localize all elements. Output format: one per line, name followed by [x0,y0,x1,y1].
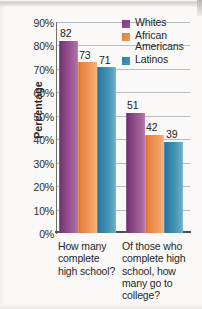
value-label-latinos-group0: 71 [99,54,110,66]
legend-item-african-americans[interactable]: African Americans [122,30,200,53]
x-axis-category-labels: How many complete high school? Of those … [0,240,202,309]
legend: Whites African Americans Latinos [122,17,200,66]
legend-item-latinos[interactable]: Latinos [122,54,200,66]
y-tick-label: 20% [2,181,54,193]
value-label-whites-group0: 82 [60,27,71,39]
legend-label-whites: Whites [135,17,167,29]
bar-latinos-group1[interactable] [164,142,183,233]
bar-african-americans-group1[interactable] [145,135,164,233]
bar-african-americans-group0[interactable] [78,62,97,233]
x-category-label-1: Of those who complete high school, how m… [122,240,202,301]
bar-whites-group0[interactable] [59,41,78,233]
legend-swatch-icon-whites [122,20,130,28]
bar-whites-group1[interactable] [126,113,145,233]
bar-latinos-group0[interactable] [97,67,116,233]
legend-label-latinos: Latinos [135,54,168,66]
value-label-african-americans-group0: 73 [79,49,90,61]
legend-label-african-americans: African Americans [135,30,200,53]
x-category-label-0: How many complete high school? [58,240,120,277]
legend-swatch-icon-latinos [122,57,130,65]
y-tick-label: 10% [2,205,54,217]
legend-swatch-icon-african-americans [122,33,130,41]
y-tick-label: 80% [2,40,54,52]
y-tick-label: 30% [2,158,54,170]
y-tick-label: 90% [2,17,54,29]
scan-artifact-top-right [197,0,202,16]
value-label-african-americans-group1: 42 [146,121,157,133]
y-tick-label: 40% [2,134,54,146]
value-label-whites-group1: 51 [127,99,138,111]
y-tick-label: 60% [2,87,54,99]
chart-figure: Percentage 90% 80% 70% 60% 50% 40% 30% 2… [0,0,202,309]
y-tick-label: 50% [2,111,54,123]
y-tick-label: 70% [2,64,54,76]
y-axis-line [56,22,57,234]
legend-item-whites[interactable]: Whites [122,17,200,29]
y-tick-label: 0% [2,228,54,240]
value-label-latinos-group1: 39 [166,128,177,140]
